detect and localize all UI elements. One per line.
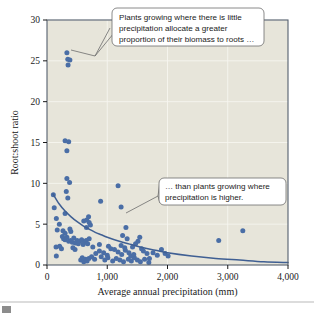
data-point xyxy=(137,235,142,240)
y-axis-ticks xyxy=(43,20,47,265)
data-point xyxy=(121,259,126,264)
data-point xyxy=(67,180,72,185)
data-point xyxy=(131,252,136,257)
y-tick-label: 30 xyxy=(31,15,41,25)
x-tick-label: 4,000 xyxy=(277,272,299,282)
x-tick-label: 1,000 xyxy=(97,272,119,282)
data-point xyxy=(216,238,221,243)
data-point xyxy=(122,245,127,250)
x-tick-label: 0 xyxy=(45,272,50,282)
data-point xyxy=(85,241,90,246)
data-point xyxy=(106,244,111,249)
callout-bottom-line-2: precipitation is higher. xyxy=(165,193,243,202)
callout-top-line-3: proportion of their biomass to roots … xyxy=(119,35,254,44)
y-tick-label: 15 xyxy=(31,138,41,148)
data-point xyxy=(90,245,95,250)
data-point xyxy=(92,257,97,262)
y-tick-label: 0 xyxy=(35,260,40,270)
caption-marker xyxy=(2,306,11,313)
data-point xyxy=(119,252,124,257)
x-axis-title: Average annual precipitation (mm) xyxy=(97,286,237,298)
data-point xyxy=(240,228,245,233)
data-point xyxy=(151,250,156,255)
y-tick-label: 25 xyxy=(31,56,41,66)
x-axis-tick-labels: 0 1,000 2,000 3,000 4,000 xyxy=(45,272,299,282)
data-point xyxy=(87,236,92,241)
x-tick-label: 3,000 xyxy=(217,272,239,282)
data-point xyxy=(120,233,125,238)
data-point xyxy=(66,62,71,67)
data-point xyxy=(119,205,124,210)
x-axis-ticks xyxy=(47,265,288,269)
data-point xyxy=(166,254,171,259)
data-point xyxy=(146,260,151,265)
data-point xyxy=(138,259,143,264)
data-point xyxy=(66,139,71,144)
y-tick-label: 5 xyxy=(35,220,40,230)
data-point xyxy=(123,225,128,230)
data-point xyxy=(54,254,59,259)
y-tick-label: 20 xyxy=(31,97,41,107)
data-point xyxy=(116,183,121,188)
data-point xyxy=(67,58,72,63)
data-point xyxy=(73,247,78,252)
data-point xyxy=(55,227,60,232)
data-point xyxy=(64,148,69,153)
data-point xyxy=(64,189,69,194)
callout-bottom-line-1: … than plants growing where xyxy=(165,182,270,191)
callout-top-line-1: Plants growing where there is little xyxy=(119,13,242,22)
y-tick-label: 10 xyxy=(31,179,41,189)
y-axis-title: Root:shoot ratio xyxy=(9,110,20,175)
data-point xyxy=(98,199,103,204)
data-point xyxy=(105,255,110,260)
data-point xyxy=(64,176,69,181)
scatter-plot-chart: 30 25 20 15 10 5 0 0 1,000 2,000 3,000 4… xyxy=(0,0,314,314)
data-point xyxy=(86,214,91,219)
data-point xyxy=(142,257,147,262)
data-point xyxy=(65,196,70,201)
data-point xyxy=(54,216,59,221)
data-point xyxy=(125,236,130,241)
callout-top-line-2: precipitation allocate a greater xyxy=(119,24,228,33)
data-point xyxy=(68,229,73,234)
data-point xyxy=(57,222,62,227)
data-point xyxy=(99,254,104,259)
data-point xyxy=(97,242,102,247)
figure-container: 30 25 20 15 10 5 0 0 1,000 2,000 3,000 4… xyxy=(0,0,314,314)
x-tick-label: 2,000 xyxy=(157,272,179,282)
data-point xyxy=(64,50,69,55)
data-point xyxy=(57,244,62,249)
data-point xyxy=(52,205,57,210)
data-point xyxy=(155,253,160,258)
y-axis-tick-labels: 30 25 20 15 10 5 0 xyxy=(31,15,41,270)
data-point xyxy=(145,251,150,256)
